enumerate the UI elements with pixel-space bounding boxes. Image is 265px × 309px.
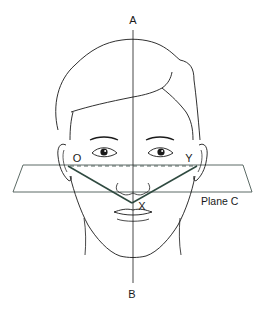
left-eyebrow bbox=[90, 137, 118, 140]
label-plane-c: Plane C bbox=[201, 195, 239, 207]
line-o-x bbox=[68, 166, 132, 203]
label-y: Y bbox=[185, 152, 193, 164]
diagram-canvas: A B O Y X Plane C bbox=[0, 0, 265, 309]
left-ear-inner bbox=[63, 150, 67, 172]
hair-part-right bbox=[162, 88, 193, 140]
right-ear-inner bbox=[198, 150, 202, 172]
jaw-outline bbox=[70, 176, 195, 258]
neck-left bbox=[84, 218, 86, 255]
left-eye bbox=[92, 148, 117, 157]
hair-outline bbox=[56, 39, 200, 140]
label-b: B bbox=[128, 288, 135, 300]
left-temple bbox=[70, 112, 73, 140]
left-ear bbox=[58, 144, 71, 181]
neck-right bbox=[179, 218, 181, 255]
right-eyebrow bbox=[146, 137, 174, 140]
line-y-x bbox=[132, 166, 197, 203]
label-o: O bbox=[73, 152, 82, 164]
right-eye bbox=[148, 148, 173, 157]
face-plane-diagram: A B O Y X Plane C bbox=[0, 0, 265, 309]
hairline bbox=[71, 72, 172, 112]
label-a: A bbox=[129, 14, 137, 26]
plane-c-shape bbox=[13, 165, 252, 192]
label-x: X bbox=[138, 200, 146, 212]
right-ear bbox=[194, 144, 207, 181]
